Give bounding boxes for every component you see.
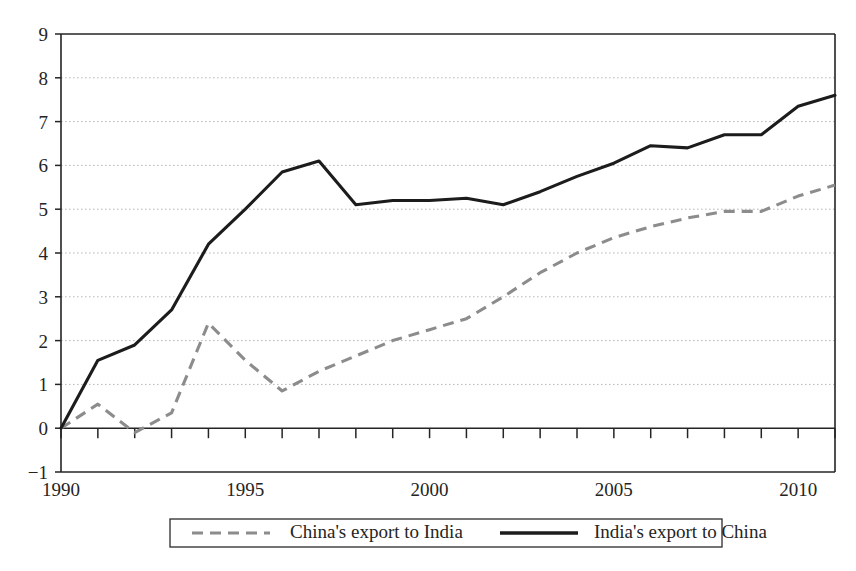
- y-tick-label-3: 3: [39, 287, 49, 308]
- series-line-1: [61, 95, 835, 428]
- chart-figure: −10123456789 19901995200020052010 China'…: [0, 0, 856, 571]
- x-tick-label-2000: 2000: [411, 479, 449, 500]
- y-tick-label-8: 8: [39, 68, 49, 89]
- chart-legend[interactable]: China's export to IndiaIndia's export to…: [170, 519, 767, 547]
- gridlines: [61, 78, 835, 385]
- data-series: [61, 95, 835, 432]
- x-tick-label-1995: 1995: [226, 479, 264, 500]
- y-axis-tick-labels: −10123456789: [28, 24, 49, 483]
- y-tick-label-7: 7: [39, 112, 49, 133]
- legend-label-0[interactable]: China's export to India: [290, 521, 463, 542]
- series-line-0: [61, 185, 835, 432]
- x-tick-label-1990: 1990: [42, 479, 80, 500]
- legend-label-1[interactable]: India's export to China: [594, 521, 767, 542]
- y-tick-label-5: 5: [39, 199, 49, 220]
- y-tick-label-9: 9: [39, 24, 49, 45]
- y-tick-label-1: 1: [39, 374, 49, 395]
- line-chart: −10123456789 19901995200020052010 China'…: [0, 0, 856, 571]
- x-axis-tick-labels: 19901995200020052010: [42, 479, 817, 500]
- x-tick-label-2005: 2005: [595, 479, 633, 500]
- y-tick-label-4: 4: [39, 243, 49, 264]
- x-tick-label-2010: 2010: [779, 479, 817, 500]
- y-tick-label-2: 2: [39, 331, 49, 352]
- x-axis-ticks: [61, 428, 835, 438]
- y-tick-label-0: 0: [39, 418, 49, 439]
- y-axis-ticks: [55, 34, 61, 472]
- y-tick-label-6: 6: [39, 155, 49, 176]
